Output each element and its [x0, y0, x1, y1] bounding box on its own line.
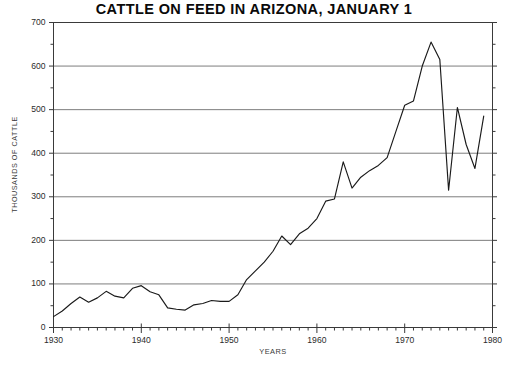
y-tick-label: 400 [6, 148, 46, 158]
y-axis-ticks [49, 23, 497, 328]
chart-title: CATTLE ON FEED IN ARIZONA, JANUARY 1 [0, 0, 508, 18]
data-series [54, 42, 484, 317]
gridlines [54, 23, 493, 284]
x-axis-label: YEARS [53, 347, 493, 356]
plot-frame [54, 23, 493, 328]
y-tick-label: 0 [6, 322, 46, 332]
x-axis-ticks [54, 324, 493, 334]
y-tick-label: 200 [6, 235, 46, 245]
x-tick-label: 1960 [292, 335, 342, 345]
x-tick-label: 1950 [204, 335, 254, 345]
chart-figure: CATTLE ON FEED IN ARIZONA, JANUARY 1 THO… [0, 0, 508, 366]
y-tick-label: 100 [6, 278, 46, 288]
y-tick-label: 700 [6, 17, 46, 27]
x-tick-label: 1940 [116, 335, 166, 345]
x-tick-label: 1970 [380, 335, 430, 345]
y-tick-label: 300 [6, 191, 46, 201]
y-axis-label: THOUSANDS OF CATTLE [10, 105, 19, 225]
y-tick-label: 600 [6, 61, 46, 71]
x-tick-label: 1980 [468, 335, 508, 345]
plot-area [0, 0, 508, 366]
x-tick-label: 1930 [29, 335, 79, 345]
y-tick-label: 500 [6, 104, 46, 114]
